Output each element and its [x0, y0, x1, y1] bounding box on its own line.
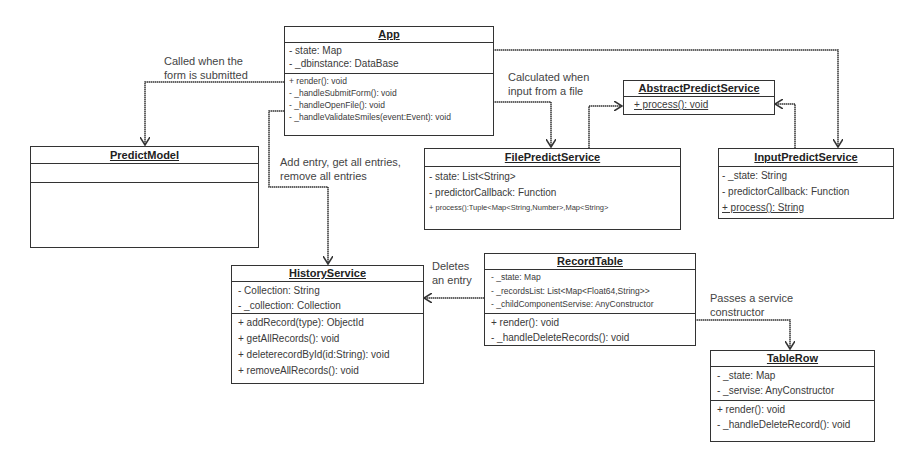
class-methods: + addRecord(type): ObjectId + getAllReco…	[232, 314, 423, 380]
method: - _handleDeleteRecords(): void	[491, 330, 691, 345]
edge-label-line: remove all entries	[280, 169, 401, 183]
edge-label-line: Add entry, get all entries,	[280, 155, 401, 169]
class-filepredictservice: FilePredictService - state: List<String>…	[424, 148, 681, 230]
edge-label-line: Deletes	[432, 259, 472, 273]
edge-label-line: constructor	[710, 305, 793, 319]
method: + removeAllRecords(): void	[238, 363, 419, 379]
method: + deleterecordById(id:String): void	[238, 347, 419, 363]
method: + process():Tuple<Map<String,Number>,Map…	[429, 201, 676, 215]
class-name: InputPredictService	[719, 149, 893, 167]
attribute: - state: Map	[289, 44, 489, 57]
class-methods: + render(): void - _handleDeleteRecord()…	[711, 401, 874, 433]
edge-label-app-filepredict: Calculated when input from a file	[508, 70, 589, 98]
class-attributes: - Collection: String - _collection: Coll…	[232, 282, 423, 314]
edge-label-line: an entry	[432, 273, 472, 287]
edge-label-app-predictmodel: Called when the form is submitted	[164, 54, 248, 82]
class-attributes: - state: List<String> - predictorCallbac…	[425, 167, 680, 216]
class-methods	[31, 183, 258, 185]
class-attributes: - _state: String - predictorCallback: Fu…	[719, 167, 893, 217]
method: - _handleDeleteRecord(): void	[717, 417, 870, 432]
class-abstractpredictservice: AbstractPredictService + process(): void	[623, 80, 775, 115]
edge-label-line: input from a file	[508, 84, 589, 98]
class-tablerow: TableRow - _state: Map - _servise: AnyCo…	[710, 350, 875, 442]
edge-filepredict-abstract	[589, 106, 622, 148]
edge-label-app-history: Add entry, get all entries, remove all e…	[280, 155, 401, 183]
attribute: - predictorCallback: Function	[429, 185, 676, 201]
method: - _handleValidateSmiles(event:Event): vo…	[289, 111, 489, 123]
uml-diagram-canvas: Called when the form is submitted Calcul…	[0, 0, 909, 464]
class-name: App	[285, 27, 493, 43]
attribute: - _state: Map	[491, 271, 691, 285]
class-predictmodel: PredictModel	[30, 146, 259, 248]
edge-label-recordtable-tablerow: Passes a service constructor	[710, 291, 793, 319]
class-name: HistoryService	[232, 266, 423, 282]
class-attributes	[31, 164, 258, 183]
attribute: - Collection: String	[238, 283, 419, 298]
class-name: FilePredictService	[425, 149, 680, 167]
class-name: PredictModel	[31, 147, 258, 164]
attribute: - _servise: AnyConstructor	[717, 383, 870, 398]
class-methods: + render(): void - _handleDeleteRecords(…	[485, 314, 695, 346]
method: - _handleSubmitForm(): void	[289, 87, 489, 99]
class-recordtable: RecordTable - _state: Map - _recordsList…	[484, 253, 696, 346]
method: + process(): String	[722, 200, 889, 216]
method: + addRecord(type): ObjectId	[238, 315, 419, 331]
attribute: - predictorCallback: Function	[722, 184, 889, 200]
class-app: App - state: Map - _dbinstance: DataBase…	[284, 26, 494, 136]
edge-label-recordtable-history: Deletes an entry	[432, 259, 472, 287]
edge-app-predictmodel	[145, 82, 284, 145]
attribute: - _dbinstance: DataBase	[289, 57, 489, 70]
class-name: RecordTable	[485, 254, 695, 270]
class-attributes: - _state: Map - _recordsList: List<Map<F…	[485, 270, 695, 314]
attribute: - _childComponentServise: AnyConstructor	[491, 298, 691, 312]
method: + render(): void	[289, 75, 489, 87]
method: + process(): void	[634, 98, 770, 112]
edge-recordtable-tablerow	[695, 320, 790, 349]
attribute: - _state: Map	[717, 368, 870, 383]
class-name: TableRow	[711, 351, 874, 367]
edge-app-filepredict	[493, 102, 551, 147]
method: + render(): void	[717, 402, 870, 417]
edge-label-line: form is submitted	[164, 68, 248, 82]
class-methods: + process(): void	[624, 97, 774, 113]
class-methods: + render(): void - _handleSubmitForm(): …	[285, 74, 493, 124]
attribute: - _recordsList: List<Map<Float64,String>…	[491, 285, 691, 299]
edge-label-line: Called when the	[164, 54, 248, 68]
method: - _handleOpenFile(): void	[289, 99, 489, 111]
class-historyservice: HistoryService - Collection: String - _c…	[231, 265, 424, 384]
method: + render(): void	[491, 315, 691, 330]
class-name: AbstractPredictService	[624, 81, 774, 97]
edge-label-line: Passes a service	[710, 291, 793, 305]
edge-label-line: Calculated when	[508, 70, 589, 84]
class-attributes: - state: Map - _dbinstance: DataBase	[285, 43, 493, 74]
method: + getAllRecords(): void	[238, 331, 419, 347]
attribute: - state: List<String>	[429, 169, 676, 185]
attribute: - _collection: Collection	[238, 298, 419, 313]
class-inputpredictservice: InputPredictService - _state: String - p…	[718, 148, 894, 219]
edge-inputpredict-abstract	[775, 104, 795, 148]
attribute: - _state: String	[722, 168, 889, 184]
class-attributes: - _state: Map - _servise: AnyConstructor	[711, 367, 874, 401]
